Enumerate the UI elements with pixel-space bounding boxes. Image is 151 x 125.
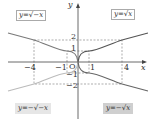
- y-axis-label: y: [66, 0, 75, 9]
- label-y-sqrt-neg-x: y=√−x: [16, 10, 46, 21]
- curve-sqrt-x: [78, 33, 148, 62]
- tick-y-1: 1: [69, 44, 78, 53]
- label-y-neg-sqrt-x: y=−√x: [103, 103, 133, 114]
- tick-y-neg1: −1: [64, 70, 80, 79]
- tick-x-neg4: −4: [22, 63, 38, 72]
- label-y-neg-sqrt-neg-x: y=−√−x: [15, 103, 51, 114]
- tick-y-neg2: −2: [64, 81, 80, 90]
- label-y-sqrt-x: y=√x: [111, 9, 135, 20]
- y-axis-arrow-icon: [76, 3, 80, 8]
- curve-sqrt-neg-x: [8, 33, 78, 62]
- tick-x-1: 1: [88, 63, 97, 72]
- tick-x-4: 4: [122, 63, 131, 72]
- tick-y-2: 2: [69, 32, 78, 41]
- x-axis-label: x: [139, 63, 148, 72]
